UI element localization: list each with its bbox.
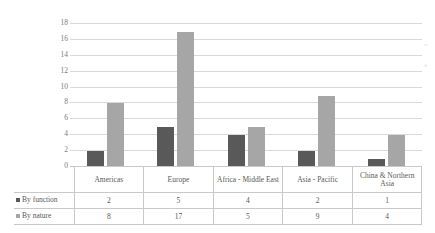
table-cell: 5: [144, 193, 214, 209]
y-tick-label: 8: [46, 99, 68, 107]
table-column-header: Asia - Pacific: [283, 167, 353, 193]
bar: [388, 135, 405, 167]
table-cell: 2: [74, 193, 144, 209]
bar-group: [281, 0, 351, 167]
bar-group: [140, 0, 210, 167]
bar: [87, 151, 104, 167]
bar-group: [352, 0, 422, 167]
y-tick-label: 14: [46, 51, 68, 59]
table-cell: 17: [144, 209, 214, 225]
legend-swatch-icon: [16, 214, 20, 218]
y-tick-label: 4: [46, 130, 68, 138]
bar: [248, 127, 265, 167]
table-cell: 5: [213, 209, 283, 225]
bar-groups: [70, 0, 422, 167]
legend-entry: By nature: [14, 209, 74, 225]
table-cell: 9: [283, 209, 353, 225]
y-tick-label: 18: [46, 19, 68, 27]
legend-entry: By function: [14, 193, 74, 209]
bar: [157, 127, 174, 167]
y-tick-label: 2: [46, 146, 68, 154]
scan-artifact-top: ~: [424, 42, 427, 48]
scan-artifact-bottom: «: [424, 62, 427, 68]
table-corner-cell: [14, 167, 74, 193]
table-cell: 4: [352, 209, 422, 225]
y-tick-label: 6: [46, 115, 68, 123]
chart-page: 181614121086420 AmericasEuropeAfrica - M…: [0, 0, 435, 233]
legend-swatch-icon: [16, 198, 20, 202]
bar-group: [70, 0, 140, 167]
table-cell: 8: [74, 209, 144, 225]
table-column-header: Africa - Middle East: [213, 167, 283, 193]
bar: [318, 96, 335, 168]
data-table: AmericasEuropeAfrica - Middle EastAsia -…: [14, 166, 422, 225]
bar: [177, 32, 194, 167]
table-cell: 4: [213, 193, 283, 209]
y-tick-label: 16: [46, 35, 68, 43]
table-cell: 2: [283, 193, 353, 209]
table-column-header: Americas: [74, 167, 144, 193]
table-column-header: Europe: [144, 167, 214, 193]
bar: [107, 103, 124, 167]
y-axis-ticks: 181614121086420: [44, 0, 68, 170]
table-cell: 1: [352, 193, 422, 209]
y-tick-label: 10: [46, 83, 68, 91]
table-row: By nature817594: [14, 209, 422, 225]
table-column-header: China & Northern Asia: [352, 167, 422, 193]
y-tick-label: 12: [46, 67, 68, 75]
table-row: By function25421: [14, 193, 422, 209]
plot-area: 181614121086420: [0, 0, 435, 170]
bar-group: [211, 0, 281, 167]
legend-label: By function: [22, 196, 58, 205]
bar: [228, 135, 245, 167]
legend-label: By nature: [22, 212, 51, 221]
table-header-row: AmericasEuropeAfrica - Middle EastAsia -…: [14, 167, 422, 193]
bar: [298, 151, 315, 167]
data-table-wrap: AmericasEuropeAfrica - Middle EastAsia -…: [0, 166, 435, 233]
